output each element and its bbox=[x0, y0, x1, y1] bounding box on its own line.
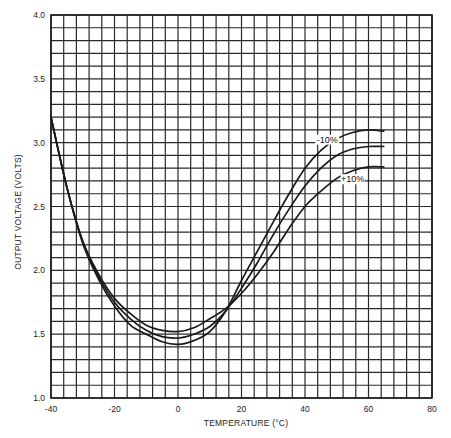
series-label: +10% bbox=[341, 174, 364, 184]
y-tick-label: 2.5 bbox=[33, 202, 45, 212]
curves bbox=[51, 117, 384, 344]
x-tick-label: 80 bbox=[427, 404, 437, 414]
curve-10 bbox=[51, 117, 384, 344]
x-tick-label: 60 bbox=[364, 404, 374, 414]
grid-lines bbox=[51, 15, 432, 398]
x-tick-label: -40 bbox=[45, 404, 58, 414]
chart: 1.01.52.02.53.03.54.0 -40-20020406080 -1… bbox=[0, 0, 451, 438]
y-tick-label: 2.0 bbox=[33, 265, 45, 275]
y-tick-label: 3.0 bbox=[33, 138, 45, 148]
y-tick-label: 4.0 bbox=[33, 10, 45, 20]
series-label: -10% bbox=[317, 135, 338, 145]
curve-nominal bbox=[51, 117, 384, 338]
y-tick-label: 1.0 bbox=[33, 393, 45, 403]
x-tick-label: 40 bbox=[300, 404, 310, 414]
y-tick-label: 3.5 bbox=[33, 74, 45, 84]
x-tick-label: 0 bbox=[176, 404, 181, 414]
x-axis-title: TEMPERATURE (°C) bbox=[204, 418, 288, 428]
y-axis-tick-labels: 1.01.52.02.53.03.54.0 bbox=[33, 10, 45, 403]
y-tick-label: 1.5 bbox=[33, 329, 45, 339]
x-axis-tick-labels: -40-20020406080 bbox=[45, 404, 437, 414]
curve-10 bbox=[51, 117, 384, 332]
x-tick-label: 20 bbox=[237, 404, 247, 414]
y-axis-title: OUTPUT VOLTAGE (VOLTS) bbox=[13, 154, 23, 270]
x-tick-label: -20 bbox=[108, 404, 121, 414]
